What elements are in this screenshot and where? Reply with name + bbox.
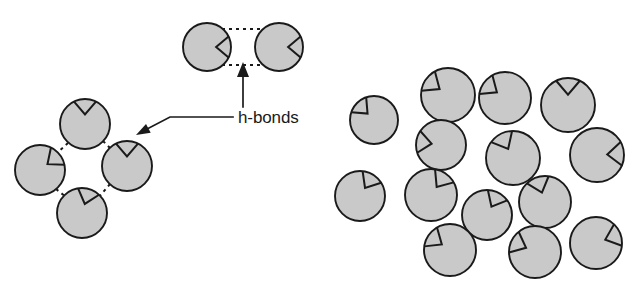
molecule-body [421,68,475,122]
hbond-leader-arrowhead [136,124,151,135]
water-molecule [102,141,152,191]
molecule-body [479,72,531,124]
water-molecule [183,23,231,71]
water-molecule [57,188,107,238]
molecule-body [335,171,385,221]
water-molecule [255,23,303,71]
water-molecule [479,72,531,124]
molecule-body [350,96,398,144]
molecule-body [541,78,595,132]
water-molecule [335,171,385,221]
water-molecule [486,131,540,185]
water-molecule [416,120,466,170]
water-molecule [15,145,65,195]
molecule-body [424,224,476,276]
molecule-body [486,131,540,185]
water-molecule [350,96,398,144]
molecule-body [570,128,624,182]
molecule-body [60,99,110,149]
water-molecule [570,217,622,269]
molecule-body [509,226,561,278]
water-molecule [424,224,476,276]
molecule-body [416,120,466,170]
molecule-body [15,145,65,195]
annotation-layer: h-bonds [136,62,299,135]
molecule-body [183,23,231,71]
figure-root: h-bonds [0,0,636,287]
water-molecule [519,176,571,228]
water-molecule [570,128,624,182]
molecule-body [255,23,303,71]
water-molecule [421,68,475,122]
water-molecule [60,99,110,149]
hbond-label: h-bonds [238,108,299,127]
water-molecule [541,78,595,132]
hbond-leader-line [143,117,233,131]
molecule-body [102,141,152,191]
disordered-liquid-cluster-group [335,68,624,278]
water-molecule [405,169,457,221]
ordered-ice-cluster-group [15,99,152,238]
hydrogen-bond [57,143,68,153]
water-molecule [509,226,561,278]
water-hydrogen-bond-diagram: h-bonds [0,0,636,287]
molecule-body [405,169,457,221]
